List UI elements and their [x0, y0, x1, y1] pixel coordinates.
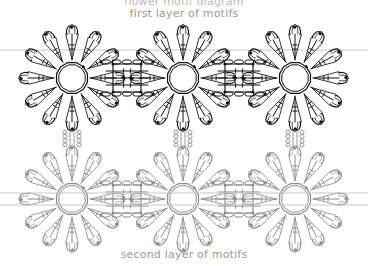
joiner-second-layer-1	[100, 181, 155, 217]
petal-side-spoke	[295, 97, 301, 122]
slip-stitch-dot	[319, 120, 322, 123]
petal-side-spoke	[183, 34, 189, 59]
chain-stitch	[63, 143, 67, 147]
petal-side-spoke	[295, 34, 301, 59]
chain-stitch	[63, 139, 67, 143]
slip-stitch-dot	[100, 182, 103, 185]
slip-stitch-dot	[181, 147, 184, 150]
petal-side-spoke	[91, 78, 116, 84]
slip-stitch-dot	[207, 241, 210, 244]
slip-stitch-dot	[250, 223, 253, 226]
chain-stitch	[63, 135, 67, 139]
slip-stitch-dot	[207, 32, 210, 35]
slip-stitch-dot	[319, 241, 322, 244]
petal-side-spoke	[139, 199, 164, 205]
chain-stitch	[286, 139, 290, 143]
centre-ring-inner	[282, 186, 308, 212]
slip-stitch-dot	[264, 61, 267, 64]
centre-ring-inner	[170, 65, 196, 91]
slip-stitch-dot	[193, 65, 196, 68]
slip-stitch-dot	[82, 65, 85, 68]
petal-side-spoke	[289, 34, 295, 59]
slip-stitch-dot	[20, 77, 23, 80]
centre-ring-inner	[282, 65, 308, 91]
slip-stitch-dot	[45, 154, 48, 157]
petal-side-spoke	[177, 155, 183, 180]
slip-stitch-dot	[181, 26, 184, 29]
slip-stitch-dot	[26, 172, 29, 175]
chain-stitch	[174, 130, 178, 134]
slip-stitch-dot	[268, 154, 271, 157]
slip-stitch-dot	[20, 198, 23, 201]
slip-stitch-dot	[115, 223, 118, 226]
centre-ring-inner	[59, 186, 85, 212]
petal-side-spoke	[139, 78, 164, 84]
petal-side-spoke	[72, 97, 78, 122]
petal-side-spoke	[295, 218, 301, 243]
slip-stitch-dot	[226, 102, 229, 105]
slip-stitch-dot	[96, 241, 99, 244]
petal-side-spoke	[139, 72, 164, 78]
petal-side-spoke	[251, 199, 276, 205]
petal-side-spoke	[72, 34, 78, 59]
slip-stitch-dot	[212, 93, 215, 96]
slip-stitch-dot	[156, 242, 159, 245]
slip-stitch-dot	[100, 214, 103, 217]
petal-side-spoke	[202, 72, 227, 78]
slip-stitch-dot	[96, 120, 99, 123]
petal-side-spoke	[177, 97, 183, 122]
slip-stitch-dot	[156, 154, 159, 157]
slip-stitch-dot	[264, 93, 267, 96]
petal-side-spoke	[314, 199, 339, 205]
petal-side-spoke	[251, 193, 276, 199]
slip-stitch-dot	[71, 127, 74, 130]
slip-stitch-dot	[344, 76, 347, 79]
slip-stitch-dot	[114, 51, 117, 54]
slip-stitch-dot	[305, 186, 308, 189]
slip-stitch-dot	[212, 214, 215, 217]
slip-stitch-dot	[45, 242, 48, 245]
slip-stitch-dot	[45, 121, 48, 124]
petal-side-spoke	[66, 155, 72, 180]
joiner-first-layer-2	[212, 60, 267, 96]
petal-side-spoke	[314, 193, 339, 199]
chain-stitch	[286, 143, 290, 147]
slip-stitch-dot	[226, 223, 229, 226]
slip-stitch-dot	[264, 214, 267, 217]
slip-stitch-dot	[70, 147, 73, 150]
slip-stitch-dot	[268, 242, 271, 245]
slip-stitch-dot	[264, 182, 267, 185]
slip-stitch-dot	[338, 102, 341, 105]
chain-stitch	[77, 143, 81, 147]
chain-stitch	[188, 130, 192, 134]
petal-side-spoke	[251, 78, 276, 84]
slip-stitch-dot	[212, 182, 215, 185]
slip-stitch-dot	[294, 127, 297, 130]
slip-stitch-dot	[305, 65, 308, 68]
petal-side-spoke	[72, 218, 78, 243]
petal-side-spoke	[28, 72, 53, 78]
petal-side-spoke	[66, 218, 72, 243]
chain-stitch	[300, 143, 304, 147]
chain-stitch	[188, 143, 192, 147]
petal-side-spoke	[91, 72, 116, 78]
centre-ring-inner	[59, 65, 85, 91]
slip-stitch-dot	[156, 121, 159, 124]
petal-side-spoke	[289, 97, 295, 122]
centre-ring-inner	[170, 186, 196, 212]
petal-side-spoke	[177, 34, 183, 59]
petal-side-spoke	[314, 78, 339, 84]
petal-side-spoke	[28, 199, 53, 205]
chain-stitch	[300, 130, 304, 134]
crochet-motif-diagram	[0, 0, 368, 266]
chain-stitch	[188, 135, 192, 139]
petal-side-spoke	[251, 72, 276, 78]
inter-layer-joins	[63, 130, 304, 147]
petal-side-spoke	[289, 155, 295, 180]
slip-stitch-dot	[225, 51, 228, 54]
petal-side-spoke	[28, 78, 53, 84]
slip-stitch-dot	[26, 51, 29, 54]
slip-stitch-dot	[115, 102, 118, 105]
slip-stitch-dot	[70, 26, 73, 29]
slip-stitch-dot	[268, 121, 271, 124]
